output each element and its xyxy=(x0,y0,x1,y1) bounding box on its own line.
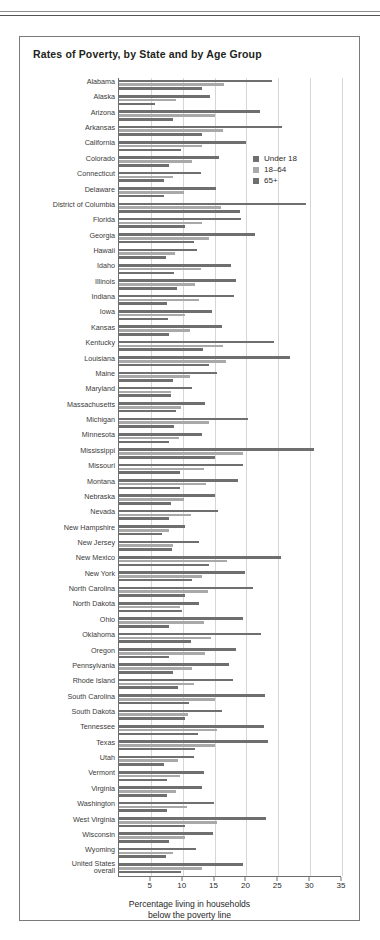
bar-a65 xyxy=(119,441,169,444)
y-axis-label: New Jersey xyxy=(0,539,115,547)
bar-a1864 xyxy=(119,544,173,547)
bar-a1864 xyxy=(119,375,190,378)
header-rule-top xyxy=(0,11,380,12)
y-axis-label: Connecticut xyxy=(0,170,115,178)
y-axis-label: Texas xyxy=(0,739,115,747)
y-axis-label: Oklahoma xyxy=(0,631,115,639)
chart-row: South Dakota xyxy=(119,708,341,723)
bar-a65 xyxy=(119,348,203,351)
bar-u18 xyxy=(119,80,272,83)
bar-u18 xyxy=(119,786,202,789)
chart-row: North Dakota xyxy=(119,600,341,615)
y-axis-label: Florida xyxy=(0,216,115,224)
chart-row: Oregon xyxy=(119,647,341,662)
x-axis-title-line2: below the poverty line xyxy=(148,910,231,920)
chart-row: Georgia xyxy=(119,232,341,247)
bar-a1864 xyxy=(119,821,217,824)
legend-swatch-icon-65-plus xyxy=(253,178,259,184)
legend-swatch-icon-18-64 xyxy=(253,167,259,173)
bar-a1864 xyxy=(119,560,227,563)
bar-a1864 xyxy=(119,345,223,348)
bar-u18 xyxy=(119,587,253,590)
bar-a65 xyxy=(119,871,181,874)
bar-u18 xyxy=(119,848,196,851)
y-axis-label: Rhode Island xyxy=(0,677,115,685)
bar-a1864 xyxy=(119,406,181,409)
bar-a1864 xyxy=(119,114,215,117)
x-axis-ticks: 5101520253035 xyxy=(118,881,341,895)
bar-a65 xyxy=(119,195,164,198)
figure-panel: Rates of Poverty, by State and by Age Gr… xyxy=(19,36,360,921)
bar-a1864 xyxy=(119,744,215,747)
y-axis-label: Wisconsin xyxy=(0,831,115,839)
bar-a65 xyxy=(119,825,185,828)
bar-a1864 xyxy=(119,867,202,870)
y-axis-label: Iowa xyxy=(0,308,115,316)
bar-u18 xyxy=(119,556,281,559)
bar-a1864 xyxy=(119,252,175,255)
bar-a1864 xyxy=(119,83,224,86)
bar-a1864 xyxy=(119,176,173,179)
chart-row: North Carolina xyxy=(119,585,341,600)
bar-a1864 xyxy=(119,360,226,363)
bar-a65 xyxy=(119,379,173,382)
legend: Under 18 18–64 65+ xyxy=(253,153,297,186)
bar-u18 xyxy=(119,218,241,221)
bar-a1864 xyxy=(119,529,169,532)
chart-row: District of Columbia xyxy=(119,201,341,216)
legend-label-18-64: 18–64 xyxy=(264,165,286,174)
bar-a1864 xyxy=(119,314,185,317)
y-axis-label: Wyoming xyxy=(0,846,115,854)
bar-a1864 xyxy=(119,698,215,701)
legend-swatch-icon-under-18 xyxy=(253,156,259,162)
y-axis-label: Arkansas xyxy=(0,124,115,132)
bar-a1864 xyxy=(119,790,176,793)
chart-row: Ohio xyxy=(119,616,341,631)
bar-a65 xyxy=(119,487,180,490)
bar-a65 xyxy=(119,456,215,459)
bar-u18 xyxy=(119,602,199,605)
bar-a1864 xyxy=(119,637,211,640)
bar-u18 xyxy=(119,433,202,436)
y-axis-label: Virginia xyxy=(0,785,115,793)
bar-a1864 xyxy=(119,713,188,716)
header-rule-bottom xyxy=(0,15,380,16)
chart-row: New Hampshire xyxy=(119,524,341,539)
bar-u18 xyxy=(119,402,205,405)
y-axis-label: South Dakota xyxy=(0,708,115,716)
chart-row: Kentucky xyxy=(119,339,341,354)
bar-a1864 xyxy=(119,268,201,271)
bar-a1864 xyxy=(119,514,191,517)
y-axis-label: Alabama xyxy=(0,78,115,86)
bar-a65 xyxy=(119,333,169,336)
bar-u18 xyxy=(119,418,248,421)
bar-a65 xyxy=(119,517,169,520)
chart-row: United Statesoverall xyxy=(119,862,341,877)
bar-u18 xyxy=(119,832,213,835)
y-axis-label: District of Columbia xyxy=(0,201,115,209)
bar-a1864 xyxy=(119,652,205,655)
chart-row: Arkansas xyxy=(119,124,341,139)
bar-a1864 xyxy=(119,683,194,686)
bar-u18 xyxy=(119,356,290,359)
bar-a1864 xyxy=(119,836,185,839)
y-axis-label: United Statesoverall xyxy=(0,860,115,875)
bar-a65 xyxy=(119,610,182,613)
chart-row: Maryland xyxy=(119,385,341,400)
chart-row: Mississippi xyxy=(119,447,341,462)
bar-a65 xyxy=(119,763,164,766)
bar-a1864 xyxy=(119,283,195,286)
bar-a65 xyxy=(119,272,174,275)
bar-a1864 xyxy=(119,99,176,102)
y-axis-label: Missouri xyxy=(0,462,115,470)
y-axis-label: Idaho xyxy=(0,262,115,270)
bar-a65 xyxy=(119,318,168,321)
y-axis-label: Montana xyxy=(0,478,115,486)
bar-a65 xyxy=(119,594,185,597)
bar-u18 xyxy=(119,817,266,820)
bar-a1864 xyxy=(119,222,202,225)
bar-a65 xyxy=(119,179,164,182)
bar-u18 xyxy=(119,710,222,713)
y-axis-label: Maine xyxy=(0,370,115,378)
bar-a65 xyxy=(119,564,209,567)
